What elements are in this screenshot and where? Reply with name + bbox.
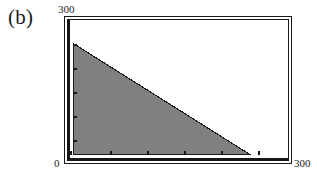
x-axis-tick xyxy=(147,151,149,155)
x-axis-tick xyxy=(70,151,72,155)
y-axis-tick xyxy=(73,92,77,94)
figure-panel: (b) 300 0 300 xyxy=(0,0,317,179)
y-axis-tick xyxy=(73,68,77,70)
x-axis-tick xyxy=(258,151,260,155)
y-axis-max-label: 300 xyxy=(58,3,75,15)
shaded-triangle-region xyxy=(73,21,287,155)
x-axis-max-label: 300 xyxy=(294,157,311,169)
x-axis-tick xyxy=(110,151,112,155)
plot-area xyxy=(73,21,287,155)
triangle-fill xyxy=(73,43,251,155)
x-axis-tick xyxy=(221,151,223,155)
plot-frame xyxy=(64,16,292,164)
y-axis-tick xyxy=(73,44,77,46)
y-axis-tick xyxy=(73,116,77,118)
plot-axes xyxy=(67,19,289,161)
panel-label: (b) xyxy=(8,4,33,30)
x-axis-tick xyxy=(184,151,186,155)
y-axis-min-label: 0 xyxy=(54,157,60,169)
y-axis-tick xyxy=(73,140,77,142)
